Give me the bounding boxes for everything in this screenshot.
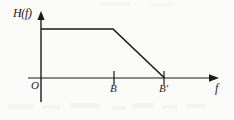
filter-response-figure: H(f) O B B′ f [0, 0, 234, 120]
tick-label-B: B [110, 83, 117, 94]
y-axis-arrow-icon [37, 11, 44, 20]
x-axis [28, 74, 219, 82]
tick-label-B-prime: B′ [159, 83, 168, 94]
figure-canvas [0, 0, 234, 120]
x-axis-label: f [215, 82, 218, 94]
transfer-function-curve [41, 29, 165, 78]
origin-label: O [31, 80, 39, 91]
y-axis-label: H(f) [13, 7, 32, 19]
